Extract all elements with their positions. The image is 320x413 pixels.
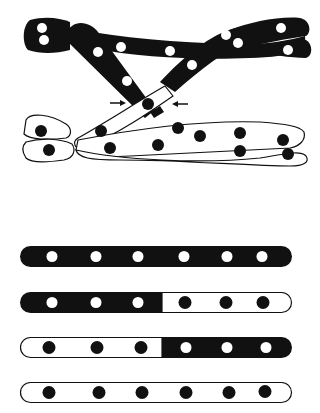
chiasma-figure bbox=[23, 18, 311, 166]
dark-chromatid-left-end bbox=[24, 18, 70, 53]
resulting-chromatids bbox=[20, 246, 292, 403]
chiasma-arrow-right bbox=[172, 101, 188, 107]
chromatid-parental-light bbox=[21, 383, 292, 403]
chromatid-recombinant-light-dark bbox=[21, 337, 293, 358]
crossing-over-diagram bbox=[0, 0, 320, 413]
light-chromatid-left-end-a bbox=[24, 115, 71, 139]
chromatid-parental-dark bbox=[20, 246, 292, 267]
chromatid-recombinant-dark-light bbox=[20, 292, 292, 313]
dark-chromatid-diagonal-right bbox=[160, 28, 250, 92]
chiasma-arrow-left bbox=[110, 100, 126, 106]
